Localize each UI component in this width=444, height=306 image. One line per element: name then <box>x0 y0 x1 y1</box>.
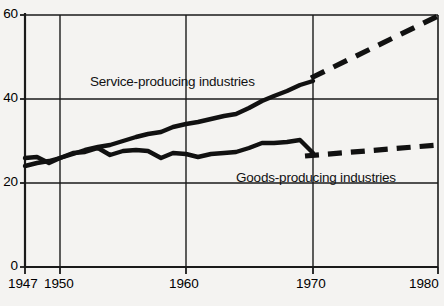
chart-grid <box>25 13 438 268</box>
line-chart-plot <box>0 0 444 306</box>
series-forecast-goods-producing <box>305 145 438 156</box>
series-annotation-service-producing: Service-producing industries <box>90 74 255 89</box>
y-axis-label-20: 20 <box>0 174 18 189</box>
x-axis-label-1980: 1980 <box>409 276 439 291</box>
series-annotation-goods-producing: Goods-producing industries <box>236 170 396 185</box>
x-axis-label-1970: 1970 <box>296 276 326 291</box>
x-axis-label-1960: 1960 <box>169 276 199 291</box>
y-axis-label-0: 0 <box>0 258 18 273</box>
y-axis-label-60: 60 <box>0 6 18 21</box>
x-axis-label-1947: 1947 <box>8 276 38 291</box>
x-axis-label-1950: 1950 <box>44 276 74 291</box>
chart-container: 60 40 20 0 1947 1950 1960 1970 1980 Serv… <box>0 0 444 306</box>
series-forecast-service-producing <box>311 16 438 78</box>
y-axis-label-40: 40 <box>0 90 18 105</box>
x-axis-ticks <box>25 267 438 274</box>
series-line-goods-producing <box>25 140 313 163</box>
